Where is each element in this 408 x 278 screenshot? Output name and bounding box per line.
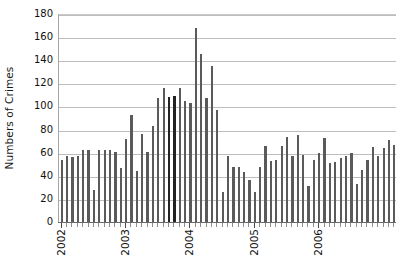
bar — [173, 96, 175, 222]
x-tick-minor — [184, 223, 185, 227]
x-tick-minor — [147, 223, 148, 227]
x-tick-minor — [232, 223, 233, 227]
x-axis-ticks — [58, 223, 396, 228]
x-tick-minor — [275, 223, 276, 227]
x-tick-minor — [227, 223, 228, 227]
bar — [334, 162, 336, 222]
bar — [318, 153, 320, 222]
bar — [71, 157, 73, 222]
bar — [393, 145, 395, 222]
crime-bar-chart: Numbers of Crimes 0204060801001201401601… — [0, 0, 408, 278]
x-tick-minor — [200, 223, 201, 227]
y-tick-label: 80 — [40, 125, 53, 135]
bar — [136, 171, 138, 222]
x-tick-minor — [93, 223, 94, 227]
y-axis-tick-labels: 020406080100120140160180 — [16, 14, 56, 222]
x-tick-major — [189, 223, 190, 228]
x-axis-label-text: 2003 — [120, 229, 131, 256]
bar — [307, 186, 309, 222]
x-tick-minor — [157, 223, 158, 227]
x-tick-minor — [71, 223, 72, 227]
x-tick-minor — [77, 223, 78, 227]
x-tick-major — [125, 223, 126, 228]
chart-title — [0, 0, 408, 3]
x-tick-minor — [393, 223, 394, 227]
x-tick-minor — [372, 223, 373, 227]
x-tick-minor — [243, 223, 244, 227]
y-tick-label: 100 — [34, 101, 53, 111]
bar — [291, 156, 293, 222]
bar — [345, 156, 347, 222]
bar — [383, 148, 385, 222]
x-tick-minor — [356, 223, 357, 227]
bar — [222, 192, 224, 222]
x-tick-minor — [281, 223, 282, 227]
plot-area — [58, 14, 396, 222]
x-tick-minor — [340, 223, 341, 227]
x-tick-major — [61, 223, 62, 228]
bar — [259, 167, 261, 222]
x-tick-minor — [222, 223, 223, 227]
bar — [232, 167, 234, 222]
bar — [184, 101, 186, 222]
bar — [361, 170, 363, 222]
bar — [372, 147, 374, 222]
x-axis-label-2004: 2004 — [183, 229, 195, 275]
bar — [152, 126, 154, 222]
bar — [66, 156, 68, 222]
x-tick-minor — [238, 223, 239, 227]
bar — [93, 190, 95, 222]
bar — [104, 150, 106, 222]
x-axis-label-2003: 2003 — [119, 229, 131, 275]
x-tick-minor — [136, 223, 137, 227]
x-axis-label-text: 2005 — [248, 229, 259, 256]
x-tick-minor — [130, 223, 131, 227]
y-tick-label: 40 — [40, 171, 53, 181]
x-tick-minor — [324, 223, 325, 227]
x-axis-label-2005: 2005 — [248, 229, 260, 275]
bar — [329, 163, 331, 222]
bar — [388, 140, 390, 222]
bar — [77, 156, 79, 222]
x-tick-minor — [216, 223, 217, 227]
bar — [87, 150, 89, 222]
x-tick-minor — [291, 223, 292, 227]
bar — [248, 180, 250, 222]
bar — [61, 160, 63, 222]
x-axis-label-text: 2006 — [313, 229, 324, 256]
x-axis-label-text: 2004 — [184, 229, 195, 256]
bar-series — [59, 15, 396, 222]
bar — [179, 88, 181, 222]
bar — [302, 155, 304, 222]
x-tick-minor — [168, 223, 169, 227]
x-tick-major — [254, 223, 255, 228]
bar — [340, 158, 342, 222]
bar — [109, 150, 111, 222]
x-tick-minor — [307, 223, 308, 227]
x-tick-minor — [82, 223, 83, 227]
x-tick-minor — [265, 223, 266, 227]
x-axis-year-labels: 20022003200420052006 — [58, 229, 396, 277]
x-tick-minor — [173, 223, 174, 227]
bar — [82, 150, 84, 222]
bar — [146, 152, 148, 222]
x-tick-minor — [377, 223, 378, 227]
x-tick-minor — [297, 223, 298, 227]
bar — [281, 146, 283, 222]
x-axis-label-2006: 2006 — [312, 229, 324, 275]
bar — [114, 152, 116, 222]
bar — [200, 54, 202, 222]
x-tick-minor — [345, 223, 346, 227]
bar — [275, 160, 277, 222]
x-tick-minor — [104, 223, 105, 227]
bar — [366, 160, 368, 222]
bar — [130, 115, 132, 222]
bar — [211, 66, 213, 222]
x-tick-minor — [286, 223, 287, 227]
x-axis-label-2002: 2002 — [55, 229, 67, 275]
x-tick-minor — [195, 223, 196, 227]
bar — [297, 135, 299, 222]
bar — [141, 134, 143, 222]
bar — [377, 156, 379, 222]
x-tick-minor — [66, 223, 67, 227]
